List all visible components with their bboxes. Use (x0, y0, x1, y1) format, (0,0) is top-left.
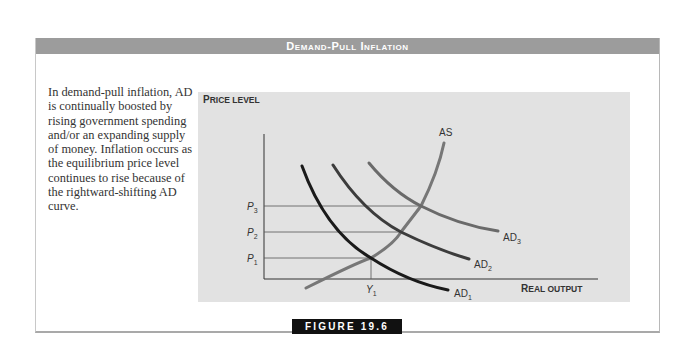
chart-svg: PRICE LEVEL REAL OUTPUT AS AD1 AD2 AD3 P… (198, 92, 630, 302)
ad2-label: AD2 (474, 259, 492, 272)
figure-caption: In demand-pull inflation, AD is continua… (48, 85, 198, 214)
y1-label: Y1 (366, 284, 377, 297)
as-label: AS (439, 127, 453, 138)
p1-label: P1 (247, 253, 258, 266)
p3-label: P3 (247, 201, 258, 214)
ad3-curve (369, 163, 498, 231)
chart-area: PRICE LEVEL REAL OUTPUT AS AD1 AD2 AD3 P… (198, 92, 630, 302)
p2-label: P2 (247, 227, 258, 240)
figure-number-badge: FIGURE 19.6 (292, 319, 402, 334)
ad3-label: AD3 (503, 232, 521, 245)
ad1-label: AD1 (454, 288, 472, 301)
figure-frame: Demand-Pull Inflation In demand-pull inf… (35, 38, 660, 333)
y-axis-label: PRICE LEVEL (203, 94, 260, 105)
figure-title: Demand-Pull Inflation (36, 38, 659, 54)
ad1-curve (302, 166, 448, 290)
x-axis-label: REAL OUTPUT (521, 283, 583, 294)
